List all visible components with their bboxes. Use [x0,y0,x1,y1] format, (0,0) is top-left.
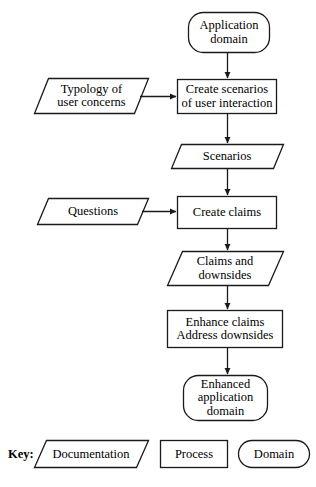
node-enhance-claims [168,311,283,348]
node-questions [38,199,149,225]
legend-label-domain: Domain [238,440,310,468]
legend-key-label: Key: [8,447,34,461]
node-typology-of-user-concerns [35,79,149,114]
flowchart-diagram: Applicationdomain Create scenariosof use… [0,0,316,487]
node-enhanced-application-domain [184,376,268,421]
legend-label-process: Process [160,440,228,468]
legend-label-documentation: Documentation [40,440,142,468]
node-create-scenarios [178,80,277,114]
node-scenarios [172,145,284,169]
node-create-claims [178,197,277,229]
diagram-shapes-layer [0,0,316,487]
node-claims-and-downsides [168,252,284,286]
node-application-domain [189,13,270,53]
